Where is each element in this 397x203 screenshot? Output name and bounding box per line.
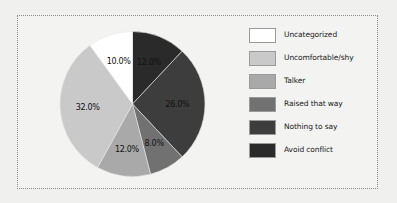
slice-label: 12.0%: [137, 58, 162, 67]
slice-label: 26.0%: [165, 100, 190, 109]
slice-label: 10.0%: [107, 57, 132, 66]
legend-swatch: [249, 51, 276, 66]
legend-label: Talker: [284, 76, 305, 85]
legend-label: Uncomfortable/shy: [284, 53, 354, 62]
legend-item-nothing-to-say: Nothing to say: [249, 120, 379, 136]
legend-swatch: [249, 28, 276, 43]
slice-label: 8.0%: [145, 139, 165, 148]
legend-label: Raised that way: [284, 99, 343, 108]
legend-swatch: [249, 143, 276, 158]
slice-label: 32.0%: [76, 103, 101, 112]
legend-swatch: [249, 120, 276, 135]
legend-swatch: [249, 97, 276, 112]
legend-label: Nothing to say: [284, 122, 337, 131]
legend-item-raised-that-way: Raised that way: [249, 97, 379, 113]
legend-item-avoid-conflict: Avoid conflict: [249, 143, 379, 159]
legend-item-talker: Talker: [249, 74, 379, 90]
legend-label: Avoid conflict: [284, 145, 333, 154]
legend-item-uncomfortable-shy: Uncomfortable/shy: [249, 51, 379, 67]
legend-label: Uncategorized: [284, 30, 337, 39]
slice-label: 12.0%: [115, 145, 140, 154]
legend-item-uncategorized: Uncategorized: [249, 28, 379, 44]
legend-swatch: [249, 74, 276, 89]
